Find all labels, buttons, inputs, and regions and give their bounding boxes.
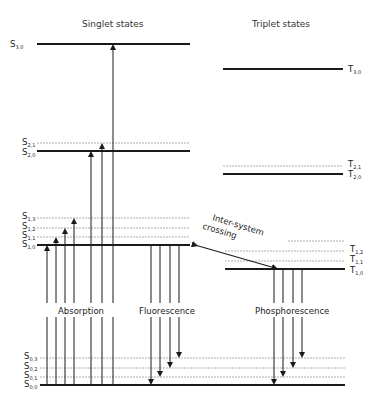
absorption-label: Absorption bbox=[58, 306, 104, 316]
label-t1-1: T1,1 bbox=[349, 254, 363, 265]
label-s3-0: S3,0 bbox=[10, 39, 23, 50]
label-s2-0: S2,0 bbox=[22, 147, 35, 158]
label-t3-0: T3,0 bbox=[347, 64, 361, 75]
triplet-states-header: Triplet states bbox=[251, 19, 310, 29]
jablonski-diagram: Singlet states Triplet states S3,0 S2,1 … bbox=[0, 0, 380, 410]
absorption-arrows bbox=[47, 47, 113, 384]
isc-label: Inter-system crossing bbox=[202, 210, 266, 248]
isc-arrow bbox=[195, 245, 275, 268]
singlet-states-header: Singlet states bbox=[82, 19, 144, 29]
phosphorescence-label: Phosphorescence bbox=[255, 306, 329, 316]
label-t2-0: T2,0 bbox=[347, 169, 361, 180]
phosphorescence-arrows bbox=[274, 270, 302, 382]
fluorescence-label: Fluorescence bbox=[139, 306, 195, 316]
label-t1-0: T1,0 bbox=[349, 265, 363, 276]
